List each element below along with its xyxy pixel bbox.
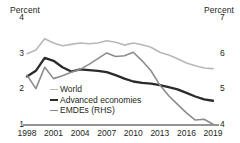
x-tick-2004: 2004 <box>67 128 93 138</box>
right-tick-6: 6 <box>216 49 240 58</box>
x-tick-2019: 2019 <box>200 128 226 138</box>
chart-legend: WorldAdvanced economiesEMDEs (RHS) <box>50 84 141 116</box>
chart-container: Percent Percent 1234 4567 19982001200420… <box>0 0 240 143</box>
legend-item-advanced-economies: Advanced economies <box>50 95 141 106</box>
left-tick-3: 3 <box>0 49 24 58</box>
legend-item-emdes-rhs: EMDEs (RHS) <box>50 105 141 116</box>
legend-label-advanced-economies: Advanced economies <box>60 95 141 106</box>
left-tick-4: 4 <box>0 13 24 22</box>
legend-swatch-world <box>50 89 58 91</box>
legend-swatch-emdes-rhs <box>50 110 58 112</box>
x-tick-2001: 2001 <box>41 128 67 138</box>
x-tick-1998: 1998 <box>14 128 40 138</box>
x-tick-2016: 2016 <box>173 128 199 138</box>
legend-label-emdes-rhs: EMDEs (RHS) <box>60 105 115 116</box>
x-tick-2007: 2007 <box>94 128 120 138</box>
left-tick-2: 2 <box>0 84 24 93</box>
legend-label-world: World <box>60 84 82 95</box>
right-tick-7: 7 <box>216 13 240 22</box>
right-tick-5: 5 <box>216 84 240 93</box>
series-line-world <box>27 39 213 69</box>
legend-swatch-advanced-economies <box>50 99 58 101</box>
x-tick-2010: 2010 <box>120 128 146 138</box>
legend-item-world: World <box>50 84 141 95</box>
x-tick-2013: 2013 <box>147 128 173 138</box>
